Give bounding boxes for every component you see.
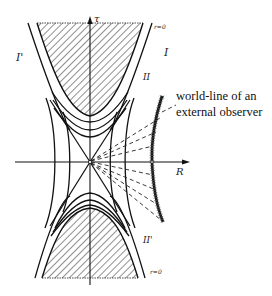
observer-axis-crossing	[151, 161, 154, 164]
observer-start-mark: ×	[160, 93, 165, 100]
right-exterior-curve-1	[125, 98, 135, 228]
tau-axis-label: τ	[94, 14, 100, 24]
spacetime-diagram: ×	[0, 0, 272, 296]
tau-axis-arrowhead	[88, 16, 93, 24]
region-I-label: I	[164, 47, 168, 58]
region-II-label: II	[143, 73, 150, 82]
observer-annotation-line2: external observer	[176, 106, 262, 119]
observer-annotation-line1: world-line of an	[176, 90, 257, 103]
r-axis-arrowhead	[182, 160, 190, 165]
r-axis-label: R	[176, 167, 184, 177]
region-I-prime-label: I'	[16, 52, 23, 63]
region-II-prime-label: II'	[143, 236, 153, 245]
left-exterior-curve-1	[45, 98, 55, 228]
singularity-bottom-label: r=0	[150, 269, 162, 275]
origin-point	[88, 160, 91, 163]
singularity-top-label: r=0	[154, 24, 166, 30]
